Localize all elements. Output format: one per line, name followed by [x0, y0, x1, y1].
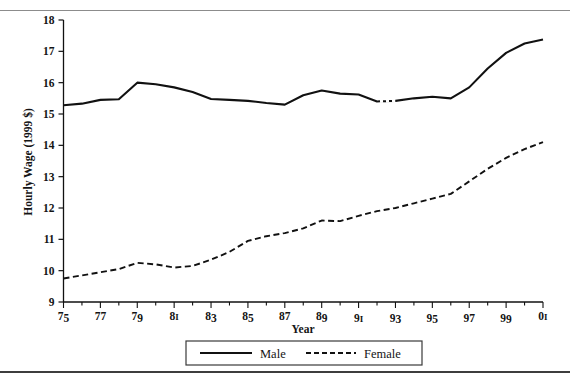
- y-tick-label: 10: [43, 265, 55, 277]
- y-tick-label: 13: [43, 171, 55, 183]
- x-tick-label: 75: [58, 310, 70, 324]
- y-tick-label: 9: [49, 296, 55, 308]
- y-axis-title-group: Hourly Wage (1999 $): [22, 108, 35, 216]
- chart-legend: MaleFemale: [186, 341, 422, 365]
- y-tick-label: 16: [43, 77, 55, 89]
- x-tick-label: 79: [132, 310, 144, 324]
- y-tick-label: 11: [44, 233, 55, 245]
- legend-label-male: Male: [260, 347, 286, 361]
- series-line-female: [64, 142, 544, 278]
- x-tick-label: 99: [500, 312, 512, 326]
- x-tick-label: 83: [205, 310, 217, 324]
- x-tick-label: 0I: [538, 310, 548, 322]
- chart-plot-area: 9101112131415161718 7577798I838587899I93…: [0, 0, 570, 382]
- x-axis-title: Year: [292, 323, 315, 335]
- x-tick-label: 8I: [170, 310, 180, 322]
- y-axis-title: Hourly Wage (1999 $): [22, 108, 35, 216]
- y-tick-label: 14: [43, 139, 55, 151]
- x-tick-label: 93: [390, 312, 402, 326]
- x-tick-label: 87: [279, 310, 291, 322]
- figure-container: 9101112131415161718 7577798I838587899I93…: [0, 0, 570, 382]
- x-tick-label: 85: [242, 310, 254, 324]
- y-tick-group: 9101112131415161718: [43, 14, 64, 308]
- legend-label-female: Female: [364, 347, 401, 361]
- x-tick-label: 95: [427, 312, 439, 326]
- x-tick-label: 97: [463, 312, 475, 324]
- axis-group: [64, 20, 544, 302]
- y-tick-label: 12: [43, 202, 55, 214]
- x-tick-label: 77: [95, 310, 107, 322]
- x-tick-label: 89: [316, 310, 328, 324]
- y-tick-label: 17: [43, 45, 55, 57]
- series-line-male: [64, 39, 544, 105]
- x-tick-group: 7577798I838587899I939597990I: [58, 302, 548, 325]
- data-series-group: [64, 39, 544, 278]
- x-tick-label: 9I: [354, 312, 364, 324]
- y-tick-label: 15: [43, 108, 55, 120]
- line-chart: 9101112131415161718 7577798I838587899I93…: [0, 0, 570, 382]
- y-tick-label: 18: [43, 14, 55, 26]
